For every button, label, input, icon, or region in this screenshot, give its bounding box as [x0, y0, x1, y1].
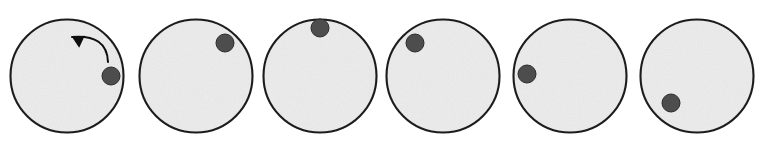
figure-container: Six-panel sequence of a ball rolling cou…: [0, 0, 772, 149]
ball-5: [518, 65, 536, 83]
panel-5: [514, 20, 627, 133]
ball-3: [311, 19, 329, 37]
ball-6: [662, 94, 680, 112]
ball-4: [406, 34, 424, 52]
panel-1: [11, 20, 124, 133]
ball-2: [216, 34, 234, 52]
panel-6: [641, 20, 754, 133]
panel-3: [264, 19, 377, 133]
panel-4: [387, 20, 500, 133]
ball-in-circle-sequence-figure: [0, 0, 772, 149]
panel-2: [140, 20, 253, 133]
ball-1: [102, 67, 120, 85]
